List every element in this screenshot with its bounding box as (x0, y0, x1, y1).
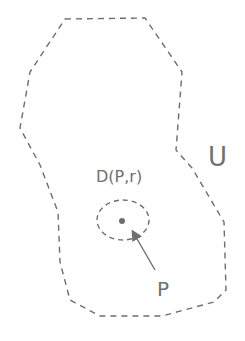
disk-label: D(P,r) (96, 167, 142, 186)
point-p-dot (119, 218, 125, 224)
point-label: P (157, 277, 169, 301)
region-label: U (208, 142, 227, 172)
arrow-to-point (133, 232, 155, 270)
diagram-canvas: U D(P,r) P (0, 0, 245, 341)
